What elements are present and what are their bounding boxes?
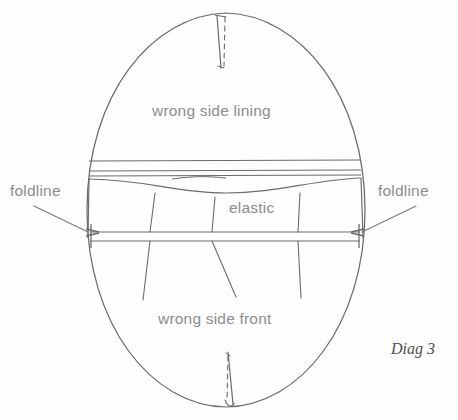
gather-lines — [143, 193, 301, 300]
gather-line-3-upper — [298, 193, 300, 232]
casing-notch — [172, 177, 226, 179]
gather-line-2-lower — [212, 241, 236, 297]
garment-oval-outline — [87, 13, 365, 407]
top-dart — [215, 15, 226, 68]
diagram-caption: Diag 3 — [391, 341, 435, 357]
label-foldline-left: foldline — [10, 183, 61, 199]
gather-line-1-upper — [150, 193, 155, 232]
foldline-markers — [86, 224, 364, 248]
leader-line-left — [34, 206, 88, 232]
gather-line-1-lower — [143, 241, 150, 300]
gather-line-2-upper — [212, 197, 215, 232]
label-wrong-side-front: wrong side front — [158, 311, 271, 327]
casing-curved-seam — [89, 178, 361, 193]
label-wrong-side-lining: wrong side lining — [152, 103, 271, 119]
top-dart-foldline — [224, 17, 225, 66]
band-side-edges — [88, 178, 363, 238]
label-elastic: elastic — [229, 200, 274, 216]
gather-line-3-lower — [298, 241, 301, 298]
casing-seam-line-b — [89, 175, 361, 176]
diagram-canvas: wrong side lining elastic wrong side fro… — [0, 0, 458, 420]
bottom-dart — [225, 352, 234, 406]
label-foldline-right: foldline — [378, 183, 429, 199]
leader-line-right — [362, 206, 416, 232]
elastic-casing-band — [89, 160, 361, 193]
bottom-dart-foldline — [227, 356, 228, 400]
casing-seam-line-a — [89, 170, 361, 171]
casing-top-line — [89, 160, 361, 161]
